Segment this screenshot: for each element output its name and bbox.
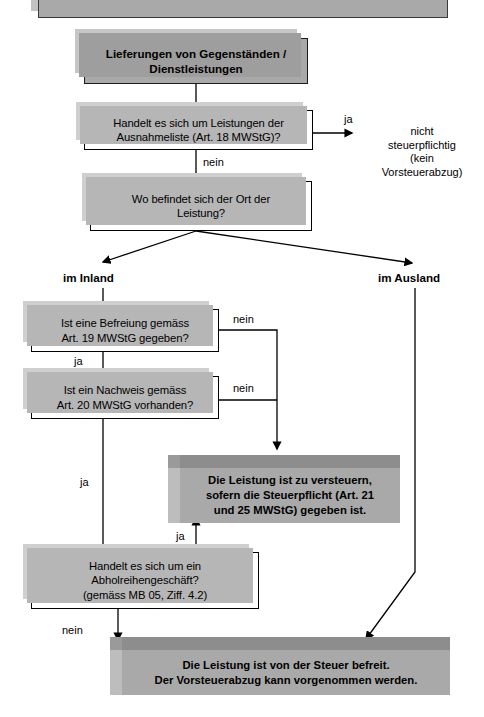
edge-label-nein-abholreihen: nein [62,624,83,638]
abholreihen-label: Handelt es sich um ein Abholreihengeschä… [77,559,213,603]
node-question-nachweis: Ist ein Nachweis gemäss Art. 20 MWStG vo… [31,376,219,419]
edge-ort-inland [103,231,196,262]
edge-label-ja-befreiung: ja [74,355,83,369]
start-label: Lieferungen von Gegenständen / Dienstlei… [100,46,292,76]
edge-label-im-ausland: im Ausland [378,271,440,285]
versteuern-label: Die Leistung ist zu versteuern, sofern d… [198,473,382,518]
edge-label-nein-ausnahmeliste: nein [203,156,224,170]
nachweis-label: Ist ein Nachweis gemäss Art. 20 MWStG vo… [51,383,199,412]
edge-label-nein-nachweis: nein [233,382,254,396]
top-cut-box-face [38,0,448,18]
versteuern-corner [168,455,180,468]
node-result-befreit: Die Leistung ist von der Steuer befreit.… [110,637,450,695]
versteuern-top-bevel [168,455,400,468]
versteuern-face: Die Leistung ist zu versteuern, sofern d… [180,468,400,523]
flowchart-canvas: Lieferungen von Gegenständen / Dienstlei… [0,0,484,717]
node-top-cut-box [38,0,448,18]
ausnahmeliste-label: Handelt es sich um Leistungen der Ausnah… [107,116,290,145]
node-question-befreiung: Ist eine Befreiung gemäss Art. 19 MWStG … [31,309,219,352]
befreit-corner [110,637,122,650]
befreiung-label: Ist eine Befreiung gemäss Art. 19 MWStG … [55,316,195,345]
edge-label-ja-abholreihen: ja [176,530,185,544]
edge-label-ja-nachweis: ja [80,476,89,490]
edge-label-im-inland: im Inland [63,271,114,285]
node-question-abholreihengeschaeft: Handelt es sich um ein Abholreihengeschä… [31,552,259,609]
edge-label-nein-befreiung: nein [233,313,254,327]
node-result-versteuern: Die Leistung ist zu versteuern, sofern d… [168,455,400,523]
node-question-ausnahmeliste: Handelt es sich um Leistungen der Ausnah… [84,110,313,150]
befreit-top-bevel [110,637,450,650]
befreit-label: Die Leistung ist von der Steuer befreit.… [147,658,426,688]
befreit-face: Die Leistung ist von der Steuer befreit.… [122,650,450,695]
edge-ort-ausland [196,231,412,263]
edge-label-ja-ausnahmeliste: ja [344,113,353,127]
node-start-lieferungen: Lieferungen von Gegenständen / Dienstlei… [84,38,308,84]
ort-label: Wo befindet sich der Ort der Leistung? [126,192,276,221]
node-question-ort: Wo befindet sich der Ort der Leistung? [90,181,312,231]
node-result-nicht-steuerpflichtig: nicht steuerpflichtig (kein Vorsteuerabz… [366,125,478,179]
